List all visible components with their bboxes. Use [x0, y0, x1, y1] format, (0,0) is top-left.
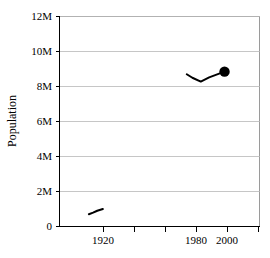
y-tick-label-8M: 8M	[37, 80, 53, 92]
y-tick-label-6M: 6M	[37, 115, 53, 127]
chart-canvas: 12M 10M 8M 6M 4M 2M 0 1920 1980 2000 Pop…	[0, 0, 270, 258]
x-tick-label-2000: 2000	[216, 234, 239, 246]
y-tick-label-0: 0	[47, 220, 53, 232]
x-tick-label-1980: 1980	[185, 234, 208, 246]
y-tick-label-10M: 10M	[31, 45, 52, 57]
chart-background	[0, 0, 270, 258]
population-chart: 12M 10M 8M 6M 4M 2M 0 1920 1980 2000 Pop…	[0, 0, 270, 258]
y-tick-label-2M: 2M	[37, 185, 53, 197]
y-axis-title: Population	[5, 95, 19, 147]
x-tick-label-1920: 1920	[92, 234, 115, 246]
endpoint-marker	[219, 66, 229, 76]
y-tick-label-12M: 12M	[31, 10, 52, 22]
y-tick-label-4M: 4M	[37, 150, 53, 162]
